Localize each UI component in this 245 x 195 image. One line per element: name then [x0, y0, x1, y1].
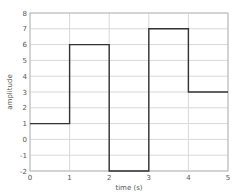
y-tick-label: 5	[23, 57, 27, 65]
y-tick-label: 0	[23, 136, 27, 144]
signal-line	[30, 29, 228, 171]
y-axis-label: amplitude	[6, 74, 14, 109]
x-tick-label: 1	[67, 174, 71, 182]
step-chart: 012345 -2-1012345678 time (s) amplitude	[0, 0, 245, 195]
y-tick-label: 7	[23, 25, 27, 33]
y-tick-label: -2	[20, 168, 27, 176]
y-tick-label: 6	[23, 41, 28, 49]
y-tick-label: 2	[23, 104, 27, 112]
y-tick-label: 3	[23, 89, 27, 97]
x-tick-label: 0	[28, 174, 32, 182]
y-tick-label: -1	[20, 152, 27, 160]
y-axis-ticks: -2-1012345678	[20, 10, 28, 176]
y-tick-label: 1	[23, 120, 27, 128]
x-tick-label: 2	[107, 174, 111, 182]
x-tick-label: 3	[147, 174, 151, 182]
y-tick-label: 4	[23, 73, 28, 81]
y-tick-label: 8	[23, 10, 27, 18]
x-axis-ticks: 012345	[28, 174, 230, 182]
x-axis-label: time (s)	[115, 184, 142, 192]
x-tick-label: 4	[186, 174, 191, 182]
x-tick-label: 5	[226, 174, 230, 182]
